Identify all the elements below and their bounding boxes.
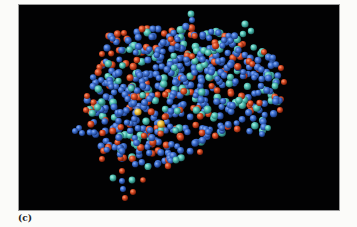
- blue-atom: [147, 127, 153, 133]
- blue-atom: [132, 161, 138, 167]
- blue-atom: [262, 112, 268, 118]
- red-atom: [234, 63, 241, 70]
- blue-atom: [79, 130, 85, 136]
- teal-atom: [204, 106, 212, 114]
- red-atom: [228, 90, 235, 97]
- teal-atom: [188, 11, 195, 18]
- red-atom: [87, 121, 94, 128]
- atoms-layer: [72, 11, 287, 201]
- blue-atom: [124, 96, 130, 102]
- red-atom: [261, 49, 267, 55]
- red-atom: [99, 130, 105, 136]
- blue-atom: [124, 119, 130, 125]
- blue-atom: [229, 102, 236, 109]
- blue-atom: [136, 72, 143, 79]
- blue-atom: [199, 137, 206, 144]
- blue-atom: [168, 46, 175, 53]
- red-atom: [130, 63, 137, 70]
- blue-atom: [272, 98, 279, 105]
- blue-atom: [167, 98, 174, 105]
- blue-atom: [117, 109, 124, 116]
- red-atom: [126, 74, 133, 81]
- teal-atom: [193, 107, 200, 114]
- teal-atom: [98, 98, 105, 105]
- blue-atom: [125, 37, 132, 44]
- red-atom: [109, 127, 116, 134]
- blue-atom: [191, 69, 198, 76]
- blue-atom: [139, 82, 146, 89]
- blue-atom: [187, 148, 194, 155]
- blue-atom: [273, 61, 279, 67]
- blue-atom: [191, 140, 198, 147]
- yellow-atom: [157, 120, 165, 128]
- teal-atom: [235, 97, 242, 104]
- red-atom: [214, 87, 220, 93]
- blue-atom: [116, 57, 122, 63]
- yellow-atom: [134, 108, 141, 115]
- red-atom: [180, 88, 187, 95]
- blue-atom: [139, 159, 145, 165]
- blue-atom: [219, 43, 225, 49]
- blue-atom: [239, 116, 246, 123]
- blue-atom: [199, 32, 206, 39]
- red-atom: [121, 30, 127, 36]
- red-atom: [281, 79, 287, 85]
- teal-atom: [272, 83, 279, 90]
- teal-atom: [105, 60, 112, 67]
- blue-atom: [172, 79, 179, 86]
- blue-atom: [193, 92, 199, 98]
- teal-atom: [241, 20, 248, 27]
- blue-atom: [206, 35, 212, 41]
- teal-atom: [173, 157, 180, 164]
- teal-atom: [226, 80, 234, 88]
- teal-atom: [160, 80, 168, 88]
- teal-atom: [145, 163, 152, 170]
- blue-atom: [108, 84, 114, 90]
- space-filling-molecule-model: [19, 5, 339, 210]
- blue-atom: [234, 120, 240, 126]
- blue-atom: [258, 76, 265, 83]
- red-atom: [95, 69, 102, 76]
- blue-atom: [144, 144, 150, 150]
- blue-atom: [214, 76, 220, 82]
- red-atom: [197, 149, 203, 155]
- red-atom: [212, 42, 219, 49]
- blue-atom: [109, 36, 115, 42]
- blue-atom: [270, 110, 277, 117]
- red-atom: [192, 33, 198, 39]
- teal-atom: [172, 127, 178, 133]
- teal-atom: [174, 108, 181, 115]
- blue-atom: [101, 118, 107, 124]
- teal-atom: [94, 85, 102, 93]
- red-atom: [199, 129, 206, 136]
- blue-atom: [133, 139, 140, 146]
- blue-atom: [115, 118, 122, 125]
- blue-atom: [255, 57, 262, 64]
- blue-atom: [72, 128, 78, 134]
- blue-atom: [98, 77, 104, 83]
- blue-atom: [115, 69, 122, 76]
- red-atom: [131, 93, 138, 100]
- blue-atom: [168, 141, 174, 147]
- blue-atom: [263, 87, 270, 94]
- red-atom: [162, 114, 168, 120]
- blue-atom: [274, 72, 281, 79]
- teal-atom: [139, 92, 145, 98]
- red-atom: [99, 51, 105, 57]
- red-atom: [122, 195, 128, 201]
- blue-atom: [146, 95, 153, 102]
- teal-atom: [248, 28, 254, 34]
- blue-atom: [135, 125, 141, 131]
- red-atom: [108, 50, 114, 56]
- blue-atom: [220, 57, 226, 63]
- red-atom: [99, 156, 105, 162]
- blue-atom: [127, 128, 133, 134]
- blue-atom: [154, 52, 160, 58]
- red-atom: [168, 36, 174, 42]
- blue-atom: [120, 186, 126, 192]
- blue-atom: [167, 124, 173, 130]
- blue-atom: [104, 147, 110, 153]
- red-atom: [189, 53, 195, 59]
- red-atom: [208, 83, 214, 89]
- blue-atom: [103, 44, 110, 51]
